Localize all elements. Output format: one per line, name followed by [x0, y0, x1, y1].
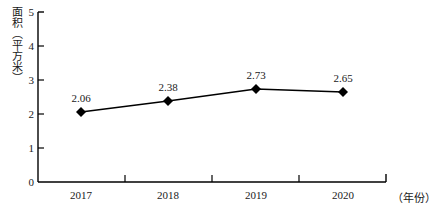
data-line: [81, 89, 343, 112]
point-value-label-2017: 2.06: [58, 92, 104, 104]
y-tick-label-0: 0: [20, 176, 34, 188]
point-value-label-2018: 2.38: [145, 81, 191, 93]
data-point-marker: [76, 107, 86, 117]
y-tick-label-2: 2: [20, 108, 34, 120]
data-point-marker: [338, 87, 348, 97]
data-point-marker: [163, 96, 173, 106]
y-tick-label-3: 3: [20, 74, 34, 86]
y-axis-ticks: [38, 46, 44, 148]
x-tick-label-2017: 2017: [51, 189, 111, 201]
y-tick-label-1: 1: [20, 142, 34, 154]
x-tick-label-2018: 2018: [138, 189, 198, 201]
line-chart: 面积（平方米）: [0, 0, 446, 220]
point-value-label-2019: 2.73: [233, 69, 279, 81]
plot-area: [0, 0, 446, 220]
x-tick-label-2020: 2020: [313, 189, 373, 201]
data-point-marker: [251, 84, 261, 94]
y-tick-label-5: 5: [20, 6, 34, 18]
x-tick-label-2019: 2019: [226, 189, 286, 201]
x-axis-title: （年份）: [392, 189, 436, 205]
point-value-label-2020: 2.65: [320, 72, 366, 84]
x-axis-ticks: [125, 175, 299, 182]
y-tick-label-4: 4: [20, 40, 34, 52]
data-markers: [76, 84, 348, 117]
